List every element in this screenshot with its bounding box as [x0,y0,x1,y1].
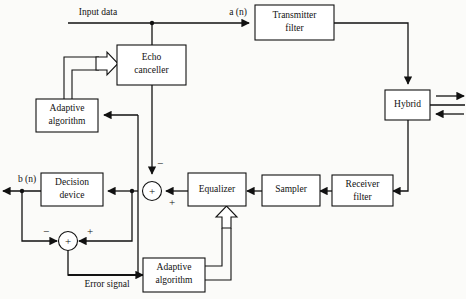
block-receiver-filter[interactable]: Receiver filter [332,175,393,206]
wire-hybrid-line-side [430,96,465,114]
summer1-plus-sign: + [169,196,175,208]
block-transmitter-filter[interactable]: Transmitter filter [255,5,334,40]
block-echo-canceller[interactable]: Echo canceller [117,45,186,85]
input-data-label: Input data [79,7,118,17]
transmitter-filter-label-line1: Transmitter [273,10,318,20]
summer2-inside-sign: + [65,235,71,247]
block-hybrid[interactable]: Hybrid [385,90,430,120]
echo-canceller-label-line1: Echo [142,52,162,62]
block-sampler[interactable]: Sampler [262,175,320,206]
adaptive-algorithm-top-label-line1: Adaptive [50,103,85,113]
block-decision-device[interactable]: Decision device [41,173,103,206]
block-adaptive-algorithm-bottom[interactable]: Adaptive algorithm [143,258,205,292]
wire-adaptive-bottom-to-equalizer [205,228,231,280]
wire-error-bus-vertical [104,115,140,277]
wire-adaptive-top-to-echo-canceller [64,57,99,99]
sampler-label: Sampler [275,184,307,194]
adaptation-arrow-equalizer [216,206,237,228]
summer2-minus-sign: − [43,225,49,237]
hybrid-label: Hybrid [394,99,421,109]
error-signal-label: Error signal [84,279,129,289]
wire-input-tap-to-echo-canceller [150,21,154,45]
summer1-inside-sign: + [149,185,155,197]
wire-summer2-to-error-bus [68,250,138,275]
wire-transmitter-to-hybrid [334,23,408,84]
decision-device-label-line1: Decision [55,177,89,187]
summing-junction-2[interactable]: + [59,232,78,251]
decision-device-label-line2: device [60,190,85,200]
receiver-filter-label-line1: Receiver [346,179,381,189]
block-equalizer[interactable]: Equalizer [188,173,246,206]
diagram-canvas: Echo canceller Adaptive algorithm Decisi… [0,0,466,299]
summing-junction-1[interactable]: + [143,182,162,201]
summer2-plus-sign: + [87,225,93,237]
block-diagram: Echo canceller Adaptive algorithm Decisi… [0,0,466,299]
adaptive-algorithm-bottom-label-line1: Adaptive [157,262,192,272]
wire-hybrid-to-receiver-filter [393,120,408,191]
adaptive-algorithm-bottom-label-line2: algorithm [156,275,194,285]
equalizer-label: Equalizer [199,184,236,194]
a-n-label: a (n) [229,7,247,18]
adaptive-algorithm-top-label-line2: algorithm [49,116,87,126]
transmitter-filter-label-line2: filter [285,23,304,33]
summer1-minus-sign: − [157,157,163,169]
echo-canceller-label-line2: canceller [134,65,169,75]
b-n-label: b (n) [18,174,36,185]
receiver-filter-label-line2: filter [353,192,372,202]
adaptation-arrow-echo-canceller [96,52,118,75]
block-adaptive-algorithm-top[interactable]: Adaptive algorithm [36,99,98,132]
